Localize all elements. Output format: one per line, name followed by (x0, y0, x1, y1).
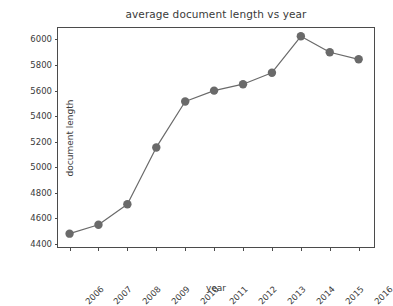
data-point-marker (94, 221, 102, 229)
y-axis-tick-label: 5800 (30, 60, 52, 70)
data-point-marker (354, 55, 362, 63)
x-axis-tick-mark (98, 247, 99, 251)
x-axis-tick-mark (156, 247, 157, 251)
x-axis-tick-mark (301, 247, 302, 251)
x-axis-tick-mark (185, 247, 186, 251)
x-axis-tick-mark (272, 247, 273, 251)
y-axis-tick-mark (55, 244, 59, 245)
y-axis-tick-mark (55, 91, 59, 92)
data-point-marker (123, 200, 131, 208)
x-axis-tick-mark (214, 247, 215, 251)
x-axis-tick-label: 2016 (372, 284, 393, 306)
y-axis-tick-label: 5200 (30, 137, 52, 147)
data-point-marker (210, 86, 218, 94)
y-axis-tick-mark (55, 167, 59, 168)
plot-area: document length 440046004800500052005400… (57, 27, 375, 248)
y-axis-tick-label: 4400 (30, 239, 52, 249)
y-axis-tick-mark (55, 142, 59, 143)
x-axis-tick-mark (330, 247, 331, 251)
y-axis-tick-label: 4600 (30, 213, 52, 223)
data-point-marker (152, 143, 160, 151)
y-axis-tick-label: 4800 (30, 188, 52, 198)
data-point-marker (268, 69, 276, 77)
data-point-marker (181, 97, 189, 105)
y-axis-tick-label: 5000 (30, 162, 52, 172)
y-axis-tick-mark (55, 65, 59, 66)
chart-title: average document length vs year (57, 8, 375, 20)
x-axis-label: year (57, 283, 375, 293)
data-point-marker (297, 32, 305, 40)
data-point-marker (326, 48, 334, 56)
y-axis-tick-label: 5600 (30, 86, 52, 96)
x-axis-tick-mark (127, 247, 128, 251)
y-axis-tick-mark (55, 39, 59, 40)
y-axis-tick-label: 6000 (30, 34, 52, 44)
y-axis-tick-mark (55, 193, 59, 194)
x-axis-tick-mark (70, 247, 71, 251)
y-axis-tick-mark (55, 218, 59, 219)
series-line (70, 36, 359, 233)
data-series-line (58, 28, 376, 249)
y-axis-tick-mark (55, 116, 59, 117)
x-axis-tick-mark (359, 247, 360, 251)
data-point-marker (65, 229, 73, 237)
y-axis-tick-label: 5400 (30, 111, 52, 121)
x-axis-tick-mark (243, 247, 244, 251)
data-point-marker (239, 80, 247, 88)
